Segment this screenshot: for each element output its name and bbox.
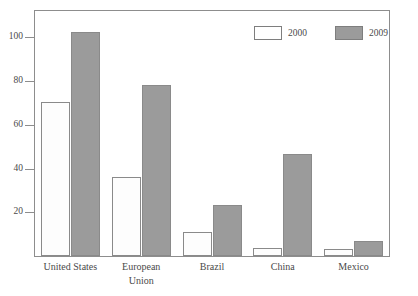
bar-2000-united-states <box>41 102 70 256</box>
x-axis-tick-label: European Union <box>106 260 177 287</box>
legend-item-label: 2009 <box>369 28 388 38</box>
bar-group <box>41 11 100 256</box>
bar-chart: 20406080100 United StatesEuropean UnionB… <box>0 0 418 296</box>
gray-swatch <box>335 26 363 40</box>
y-axis-tick-label: 80 <box>14 74 24 87</box>
bar-group <box>253 11 312 256</box>
bar-group <box>183 11 242 256</box>
bar-group <box>324 11 383 256</box>
legend-item-label: 2000 <box>288 28 307 38</box>
y-axis-tick-label: 40 <box>14 162 24 175</box>
bars-layer <box>35 11 389 256</box>
bar-2009-brazil <box>213 205 242 256</box>
bar-2009-european-union <box>142 85 171 256</box>
bar-2009-united-states <box>71 32 100 256</box>
y-axis: 20406080100 <box>0 0 34 296</box>
bar-2009-china <box>283 154 312 256</box>
y-axis-tick-label: 20 <box>14 205 24 218</box>
bar-group <box>112 11 171 256</box>
bar-2000-european-union <box>112 177 141 256</box>
x-axis-tick-label: Brazil <box>177 260 248 274</box>
y-axis-tick-label: 100 <box>9 30 23 43</box>
bar-2000-china <box>253 248 282 256</box>
legend-item-2009[interactable]: 2009 <box>335 26 388 40</box>
bar-2009-mexico <box>354 241 383 256</box>
y-axis-tick-mark <box>25 81 34 82</box>
y-axis-tick-mark <box>25 212 34 213</box>
y-axis-tick-mark <box>25 169 34 170</box>
white-swatch <box>254 26 282 40</box>
legend-item-2000[interactable]: 2000 <box>254 26 307 40</box>
bar-2000-mexico <box>324 249 353 256</box>
x-axis-tick-label: China <box>247 260 318 274</box>
chart-legend: 20002009 <box>254 24 388 41</box>
x-axis: United StatesEuropean UnionBrazilChinaMe… <box>35 260 389 296</box>
y-axis-tick-label: 60 <box>14 118 24 131</box>
x-axis-tick-label: Mexico <box>318 260 389 274</box>
y-axis-tick-mark <box>25 125 34 126</box>
y-axis-tick-mark <box>25 37 34 38</box>
x-axis-tick-label: United States <box>35 260 106 274</box>
bar-2000-brazil <box>183 232 212 256</box>
